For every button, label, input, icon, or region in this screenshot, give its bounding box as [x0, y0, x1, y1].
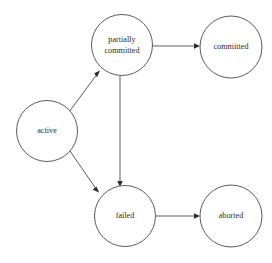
node-label-failed: failed [116, 211, 135, 220]
node-failed[interactable]: failed [95, 186, 156, 247]
edge-active-to-partially-committed [69, 71, 100, 113]
edge-failed-to-aborted [156, 213, 200, 218]
edge-partially-committed-to-failed [117, 76, 122, 187]
arrowhead-icon [194, 43, 200, 48]
node-label-partially-committed-line1: partially [108, 35, 136, 44]
arrowhead-icon [93, 187, 100, 193]
edge-active-to-failed [70, 151, 99, 193]
edge-line [69, 74, 98, 113]
diagram-canvas: active partially committed committed fai… [0, 0, 272, 263]
node-committed[interactable]: committed [200, 16, 262, 78]
node-partially-committed[interactable]: partially committed [92, 15, 153, 76]
edge-partially-committed-to-committed [153, 43, 200, 48]
arrowhead-icon [194, 213, 200, 218]
state-diagram: active partially committed committed fai… [0, 0, 272, 263]
node-label-partially-committed-line2: committed [104, 46, 139, 55]
node-label-active: active [37, 126, 57, 135]
node-label-committed: committed [213, 42, 248, 51]
node-active[interactable]: active [17, 101, 78, 162]
node-aborted[interactable]: aborted [200, 185, 262, 247]
node-label-aborted: aborted [219, 211, 244, 220]
edge-line [70, 151, 97, 190]
